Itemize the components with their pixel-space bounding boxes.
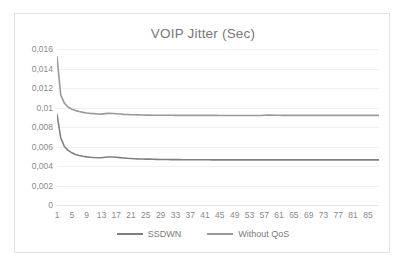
y-axis-tick-labels: 0,0160,0140,0120,010,0080,0060,0040,0020 [15, 49, 53, 205]
x-axis-tick-label: 1 [55, 210, 60, 220]
x-axis-tick-label: 37 [186, 210, 195, 220]
x-axis-tick-label: 57 [260, 210, 269, 220]
x-axis-tick-label: 17 [111, 210, 120, 220]
y-axis-tick-label: 0,01 [36, 103, 53, 113]
y-axis-tick-label: 0,002 [32, 181, 53, 191]
x-axis-tick-label: 5 [69, 210, 74, 220]
y-axis-tick-label: 0 [48, 200, 53, 210]
y-axis-tick-label: 0,008 [32, 122, 53, 132]
x-axis-tick-label: 25 [141, 210, 150, 220]
x-axis-tick-labels: 1591317212529333741454953576165697377818… [57, 210, 379, 224]
x-axis-tick-label: 81 [348, 210, 357, 220]
legend-line-swatch [207, 233, 233, 235]
x-axis-tick-label: 49 [230, 210, 239, 220]
x-axis-tick-label: 9 [84, 210, 89, 220]
x-axis-tick-label: 45 [215, 210, 224, 220]
x-axis-tick-label: 77 [334, 210, 343, 220]
series-lines [57, 49, 379, 205]
legend-item[interactable]: Without QoS [207, 229, 289, 239]
x-axis-tick-label: 85 [363, 210, 372, 220]
x-axis-tick-label: 33 [171, 210, 180, 220]
x-axis-tick-label: 73 [319, 210, 328, 220]
plot-area [57, 49, 379, 205]
x-axis-tick-label: 65 [289, 210, 298, 220]
y-axis-tick-label: 0,016 [32, 44, 53, 54]
x-axis-tick-label: 69 [304, 210, 313, 220]
legend-item[interactable]: SSDWN [117, 229, 182, 239]
x-axis-tick-label: 29 [156, 210, 165, 220]
chart-legend: SSDWNWithout QoS [15, 229, 391, 239]
x-axis-tick-label: 61 [274, 210, 283, 220]
x-axis-tick-label: 13 [97, 210, 106, 220]
y-axis-tick-label: 0,012 [32, 83, 53, 93]
x-axis-tick-label: 41 [200, 210, 209, 220]
x-axis-tick-label: 21 [126, 210, 135, 220]
series-line [57, 57, 379, 116]
y-axis-tick-label: 0,006 [32, 142, 53, 152]
gridline [57, 205, 379, 206]
chart-title: VOIP Jitter (Sec) [15, 26, 391, 41]
legend-label: SSDWN [148, 229, 182, 239]
series-line [57, 114, 379, 160]
legend-label: Without QoS [238, 229, 289, 239]
legend-line-swatch [117, 233, 143, 235]
chart-frame: VOIP Jitter (Sec) 0,0160,0140,0120,010,0… [14, 13, 390, 253]
y-axis-tick-label: 0,014 [32, 64, 53, 74]
x-axis-tick-label: 53 [245, 210, 254, 220]
y-axis-tick-label: 0,004 [32, 161, 53, 171]
